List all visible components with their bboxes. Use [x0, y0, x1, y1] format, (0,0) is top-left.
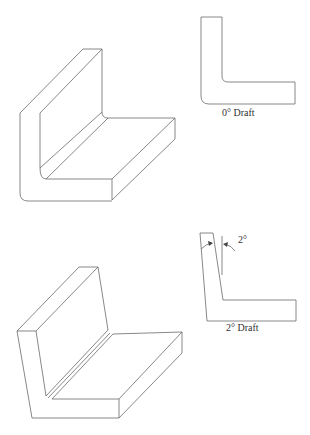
isometric-bracket-zero-draft — [20, 49, 175, 201]
arrowhead-icon — [208, 241, 213, 246]
label-zero-draft: 0° Draft — [222, 107, 255, 118]
profile-zero-draft — [201, 17, 295, 104]
arrowhead-icon — [223, 242, 228, 247]
profile-two-draft — [200, 233, 296, 321]
figure-canvas — [0, 0, 310, 435]
label-two-draft: 2° Draft — [226, 322, 259, 333]
angle-annotation: 2° — [238, 234, 247, 245]
isometric-bracket-two-draft — [17, 267, 182, 418]
